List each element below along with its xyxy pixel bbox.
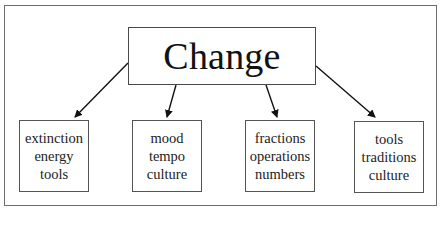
child-2-line-3: culture: [147, 165, 187, 183]
child-3-line-2: operations: [250, 147, 310, 165]
child-2-line-2: tempo: [149, 147, 185, 165]
child-2-line-1: mood: [150, 129, 183, 147]
child-1-line-2: energy: [34, 147, 73, 165]
child-4-line-2: traditions: [362, 148, 417, 166]
arrow-to-child-1: [75, 63, 128, 117]
arrow-to-child-3: [266, 85, 277, 117]
child-1-line-3: tools: [40, 165, 68, 183]
child-box-1: extinction energy tools: [19, 120, 89, 192]
child-3-line-1: fractions: [255, 129, 306, 147]
arrow-to-child-2: [167, 85, 176, 117]
child-box-4: tools traditions culture: [354, 121, 424, 193]
child-4-line-3: culture: [369, 166, 409, 184]
child-4-line-1: tools: [375, 130, 403, 148]
central-concept-box: Change: [128, 27, 316, 85]
child-1-line-1: extinction: [25, 129, 83, 147]
child-3-line-3: numbers: [255, 165, 305, 183]
central-concept-label: Change: [163, 37, 280, 75]
child-box-3: fractions operations numbers: [245, 120, 315, 192]
arrow-to-child-4: [316, 66, 375, 117]
child-box-2: mood tempo culture: [132, 120, 202, 192]
